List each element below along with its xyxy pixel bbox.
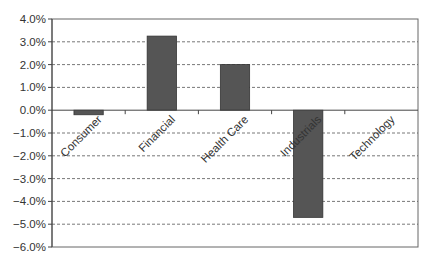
y-tick-label: 4.0% bbox=[20, 13, 46, 25]
y-tick-label: −5.0% bbox=[13, 218, 46, 230]
bar-health-care bbox=[220, 65, 249, 111]
y-tick-label: 3.0% bbox=[20, 36, 46, 48]
bar-consumer bbox=[74, 110, 103, 115]
y-tick-label: −4.0% bbox=[13, 195, 46, 207]
y-tick-label: −6.0% bbox=[13, 241, 46, 253]
y-tick-label: −1.0% bbox=[13, 127, 46, 139]
bar-financial bbox=[147, 36, 176, 110]
y-tick-label: 0.0% bbox=[20, 104, 46, 116]
y-tick-label: 2.0% bbox=[20, 59, 46, 71]
y-tick-label: −2.0% bbox=[13, 150, 46, 162]
bar-chart: 4.0%3.0%2.0%1.0%0.0%−1.0%−2.0%−3.0%−4.0%… bbox=[0, 0, 428, 264]
y-axis-tick-labels: 4.0%3.0%2.0%1.0%0.0%−1.0%−2.0%−3.0%−4.0%… bbox=[13, 13, 46, 253]
y-tick-label: −3.0% bbox=[13, 173, 46, 185]
y-tick-label: 1.0% bbox=[20, 81, 46, 93]
